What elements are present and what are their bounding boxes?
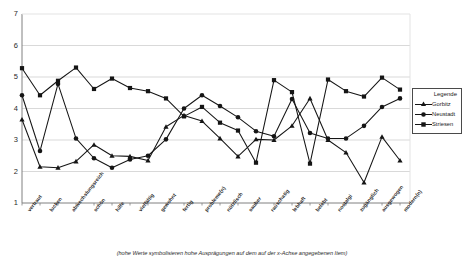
legend-title: Legende (415, 91, 459, 98)
legend-item-gorbitz[interactable]: Gorbitz (415, 100, 459, 109)
square-marker-icon (415, 120, 432, 129)
legend: Legende Gorbitz Neustadt (412, 88, 462, 134)
legend-item-neustadt[interactable]: Neustadt (415, 110, 459, 119)
triangle-marker-icon (415, 100, 432, 109)
line-chart: 7 6 5 4 3 2 1 vertrautluckenabwechslungs… (0, 0, 464, 267)
legend-label-neustadt: Neustadt (432, 111, 455, 118)
data-series (19, 65, 402, 184)
chart-caption: (hohe Werte symbolisieren hohe Ausprägun… (0, 249, 464, 257)
legend-label-striesen: Striesen (432, 121, 453, 128)
circle-marker-icon (415, 110, 432, 119)
legend-item-striesen[interactable]: Striesen (415, 120, 459, 129)
legend-label-gorbitz: Gorbitz (432, 101, 451, 108)
gridlines (22, 46, 410, 172)
plot-area (0, 0, 464, 267)
